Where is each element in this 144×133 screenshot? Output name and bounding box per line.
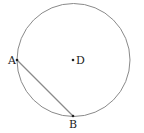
label-a: A (7, 54, 17, 67)
point-b-dot (72, 115, 75, 118)
label-d: D (76, 54, 85, 67)
chord-ab (17, 60, 73, 116)
label-b: B (69, 118, 77, 131)
geometry-diagram: A B D (0, 0, 144, 133)
point-d-dot (72, 59, 75, 62)
point-a-dot (16, 59, 19, 62)
